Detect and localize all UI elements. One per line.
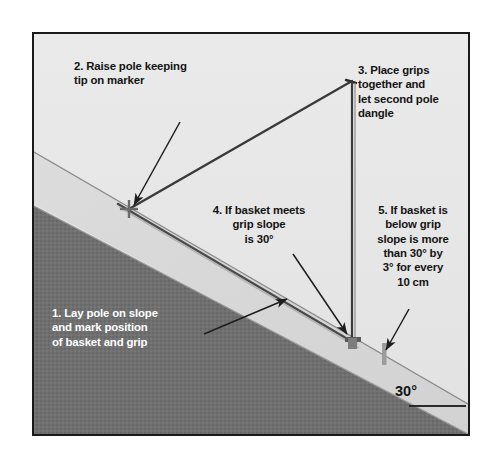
callout-step-5: 5. If basket is below grip slope is more… — [356, 203, 470, 289]
grip-mark-tick — [382, 343, 387, 365]
callout-step-2: 2. Raise pole keeping tip on marker — [74, 59, 254, 88]
slope-angle-label: 30° — [395, 383, 417, 399]
callout-step-3: 3. Place grips together and let second p… — [358, 63, 468, 120]
callout-step-4: 4. If basket meets grip slope is 30° — [196, 203, 322, 246]
figure-root: 1. Lay pole on slope and mark position o… — [0, 0, 492, 464]
callout-step-1: 1. Lay pole on slope and mark position o… — [52, 306, 232, 349]
basket-mark-on-slope — [348, 338, 357, 349]
